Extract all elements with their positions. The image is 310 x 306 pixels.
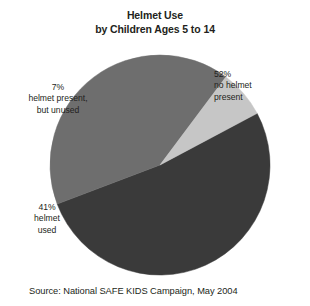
slice-name-helmet-present-but-unused-line-2: but unused — [6, 105, 110, 116]
slice-name-helmet-present-but-unused-line-1: helmet present, — [6, 93, 110, 104]
slice-name-helmet-used-line-1: helmet — [10, 213, 84, 224]
pie-chart-svg — [0, 0, 310, 306]
pie-chart — [0, 0, 310, 306]
slice-value-helmet-used: 41% — [10, 202, 84, 213]
source-note: Source: National SAFE KIDS Campaign, May… — [29, 286, 238, 296]
slice-value-helmet-present-but-unused: 7% — [6, 82, 110, 93]
slice-label-helmet-used: 41% helmet used — [10, 202, 84, 236]
slice-name-helmet-used-line-2: used — [10, 225, 84, 236]
chart-page: Helmet Use by Children Ages 5 to 14 52% … — [0, 0, 310, 306]
slice-name-no-helmet-present-line-2: present — [214, 92, 252, 103]
slice-label-helmet-present-but-unused: 7% helmet present, but unused — [6, 82, 110, 116]
slice-label-no-helmet-present: 52% no helmet present — [214, 69, 252, 103]
slice-value-no-helmet-present: 52% — [214, 69, 252, 80]
slice-name-no-helmet-present-line-1: no helmet — [214, 80, 252, 91]
